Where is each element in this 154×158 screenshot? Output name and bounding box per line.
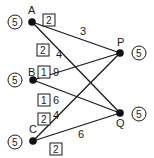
edge-weight-B-P: 9 [53, 66, 59, 78]
node-Q: Q 5 [116, 107, 146, 129]
svg-text:1: 1 [41, 67, 47, 78]
boxed-label-B-P: 1 [38, 66, 50, 78]
boxed-label-C-P: 2 [38, 113, 50, 125]
edge-weight-A-P: 3 [80, 25, 86, 37]
svg-text:5: 5 [12, 75, 18, 86]
svg-text:5: 5 [12, 17, 18, 28]
edge-weight-B-Q: 6 [53, 94, 59, 106]
node-label-C: C [29, 123, 37, 135]
boxed-label-A-Q: 2 [37, 44, 49, 56]
svg-text:1: 1 [41, 95, 47, 106]
node-P: P 5 [116, 36, 146, 60]
node-A: A 5 [8, 4, 36, 29]
node-label-P: P [117, 36, 124, 48]
svg-text:5: 5 [136, 109, 142, 120]
svg-text:2: 2 [46, 15, 52, 26]
svg-text:2: 2 [53, 144, 59, 155]
boxed-label-B-Q: 1 [38, 94, 50, 106]
svg-text:5: 5 [136, 48, 142, 59]
edge-weight-A-Q: 4 [56, 48, 62, 60]
node-C: C 5 [8, 123, 37, 149]
boxed-label-C-Q: 2 [50, 143, 62, 155]
bipartite-graph-diagram: 3 4 9 6 4 6 2 2 1 1 2 2 A 5 B 5 [0, 0, 154, 158]
node-label-A: A [28, 4, 36, 16]
svg-text:2: 2 [41, 114, 47, 125]
node-label-Q: Q [116, 117, 125, 129]
svg-text:2: 2 [40, 45, 46, 56]
edge-weight-C-Q: 6 [78, 128, 84, 140]
svg-text:5: 5 [12, 137, 18, 148]
node-B: B 5 [8, 66, 37, 87]
boxed-label-A: 2 [43, 14, 55, 26]
node-label-B: B [28, 66, 35, 78]
edge-weight-C-P: 4 [53, 109, 59, 121]
